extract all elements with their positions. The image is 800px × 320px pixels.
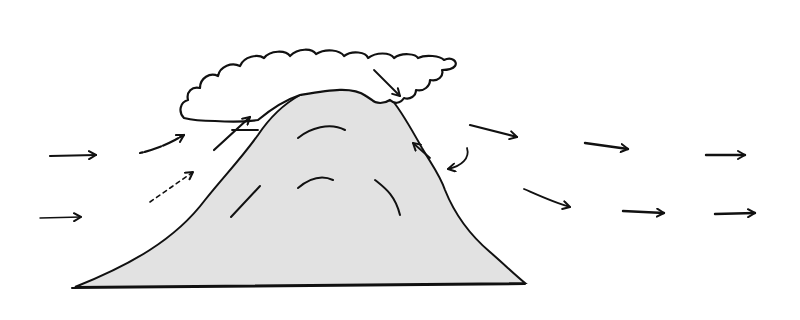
rising-air-upper: [140, 135, 184, 153]
downstream-wind-lower-2: [715, 213, 755, 214]
mountain: [72, 80, 525, 288]
downstream-wind-upper-1: [585, 143, 628, 149]
incoming-wind-upper: [50, 155, 96, 156]
lee-eddy-curl: [448, 148, 468, 169]
incoming-wind-lower: [40, 217, 81, 218]
diagram-canvas: [0, 0, 800, 320]
lee-wind-lower: [524, 189, 570, 207]
downstream-arrows: [585, 143, 755, 214]
downstream-wind-lower-1: [623, 211, 664, 213]
mountain-body: [75, 80, 525, 287]
lee-wind-upper: [470, 125, 517, 137]
mountain-airflow-diagram: Orographic airflow over a mountain with …: [0, 0, 800, 320]
rising-air-lower: [150, 172, 193, 202]
